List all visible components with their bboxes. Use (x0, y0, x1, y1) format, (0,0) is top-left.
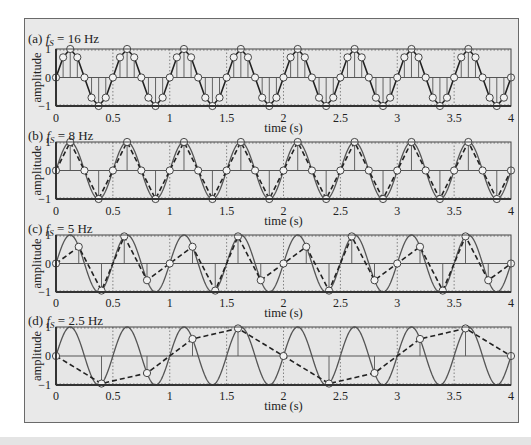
sample-marker (223, 74, 230, 81)
panel-title: (c) fS = 5 Hz (28, 221, 93, 238)
sample-marker (416, 243, 423, 250)
sample-marker (280, 260, 287, 267)
x-tick-label: 4 (508, 204, 514, 218)
sample-marker (244, 54, 251, 61)
sample-marker (337, 74, 344, 81)
sample-marker (195, 74, 202, 81)
sample-marker (401, 54, 408, 61)
sample-marker (109, 167, 116, 174)
x-tick-label: 0.5 (105, 204, 120, 218)
sample-marker (189, 335, 196, 342)
sample-marker (280, 167, 287, 174)
y-axis-label: amplitude (30, 52, 44, 102)
sample-marker (287, 54, 294, 61)
x-tick-label: 3.5 (447, 111, 462, 125)
x-tick-label: 3 (394, 204, 400, 218)
x-tick-label: 3.5 (447, 389, 462, 403)
panel-title: (a) fS = 16 Hz (28, 31, 99, 48)
x-tick-label: 2.5 (333, 204, 348, 218)
x-tick-label: 3 (394, 296, 400, 310)
sample-marker (88, 94, 95, 101)
x-tick-label: 0 (53, 389, 59, 403)
x-tick-label: 4 (508, 111, 514, 125)
x-tick-label: 3.5 (447, 296, 462, 310)
sample-marker (74, 54, 81, 61)
y-tick-label: 0 (45, 71, 51, 85)
x-tick-label: 1 (167, 296, 173, 310)
sample-marker (472, 54, 479, 61)
sample-marker (259, 94, 266, 101)
sample-marker (458, 54, 465, 61)
panel-a: −10100.511.522.533.54time (s)amplitude(a… (28, 31, 515, 135)
sample-marker (315, 94, 322, 101)
sample-marker (371, 277, 378, 284)
x-tick-label: 1 (167, 389, 173, 403)
sample-marker (143, 369, 150, 376)
sample-marker (145, 94, 152, 101)
x-tick-label: 4 (508, 389, 514, 403)
x-tick-label: 1 (167, 111, 173, 125)
sample-marker (451, 167, 458, 174)
x-axis-label: time (s) (264, 121, 303, 135)
sample-marker (121, 233, 128, 240)
sample-marker (166, 74, 173, 81)
x-axis-label: time (s) (264, 214, 303, 228)
panel-title: (b) fS = 8 Hz (28, 128, 94, 145)
x-tick-label: 3 (394, 111, 400, 125)
sample-marker (257, 277, 264, 284)
y-tick-label: 0 (45, 164, 51, 178)
sample-marker (138, 167, 145, 174)
sample-marker (98, 287, 105, 294)
sample-marker (251, 167, 258, 174)
panel-c: −10100.511.522.533.54time (s)amplitude(c… (28, 221, 515, 320)
sample-marker (60, 54, 67, 61)
x-tick-label: 1.5 (219, 296, 234, 310)
sample-marker (189, 243, 196, 250)
sample-marker (116, 54, 123, 61)
sample-marker (251, 74, 258, 81)
sample-marker (280, 352, 287, 359)
y-axis-label: amplitude (30, 238, 44, 288)
sample-marker (394, 74, 401, 81)
x-tick-label: 2.5 (333, 111, 348, 125)
x-tick-label: 0 (53, 111, 59, 125)
y-tick-label: 0 (45, 257, 51, 271)
sample-marker (102, 94, 109, 101)
x-tick-label: 0.5 (105, 296, 120, 310)
sample-marker (422, 167, 429, 174)
x-tick-label: 2.5 (333, 389, 348, 403)
sample-marker (280, 74, 287, 81)
x-axis-label: time (s) (264, 306, 303, 320)
sample-marker (372, 94, 379, 101)
x-tick-label: 4 (508, 296, 514, 310)
x-tick-label: 0.5 (105, 389, 120, 403)
sample-marker (98, 380, 105, 387)
sample-marker (303, 243, 310, 250)
sample-marker (371, 369, 378, 376)
sample-marker (216, 94, 223, 101)
sample-marker (422, 74, 429, 81)
sample-marker (330, 94, 337, 101)
sample-marker (195, 167, 202, 174)
x-axis-label: time (s) (264, 399, 303, 413)
sample-marker (365, 167, 372, 174)
sample-marker (387, 94, 394, 101)
sample-marker (416, 335, 423, 342)
x-tick-label: 3 (394, 389, 400, 403)
sample-marker (500, 94, 507, 101)
x-tick-label: 0 (53, 204, 59, 218)
sample-marker (187, 54, 194, 61)
sample-marker (325, 380, 332, 387)
sample-marker (365, 74, 372, 81)
y-axis-label: amplitude (30, 331, 44, 381)
x-tick-label: 1.5 (219, 111, 234, 125)
sample-marker (415, 54, 422, 61)
panel-b: −10100.511.522.533.54time (s)amplitude(b… (28, 128, 515, 228)
sample-marker (479, 74, 486, 81)
sample-marker (348, 233, 355, 240)
sample-marker (138, 74, 145, 81)
sample-marker (202, 94, 209, 101)
sample-marker (479, 167, 486, 174)
x-tick-label: 0 (53, 296, 59, 310)
sample-marker (443, 94, 450, 101)
